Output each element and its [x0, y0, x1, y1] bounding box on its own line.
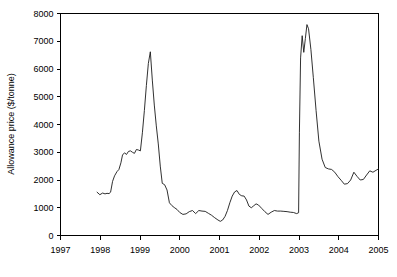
data-series-group [97, 25, 378, 222]
x-tick-label: 2002 [249, 245, 269, 255]
x-tick-label: 2000 [170, 245, 190, 255]
plot-frame [61, 14, 379, 236]
y-tick-label: 6000 [33, 64, 53, 74]
y-tick-label: 8000 [33, 9, 53, 19]
y-tick-label: 1000 [33, 203, 53, 213]
plot-area-border [61, 14, 379, 236]
x-tick-label: 2003 [289, 245, 309, 255]
y-tick-label: 0 [48, 231, 53, 241]
line-chart: 010002000300040005000600070008000 199719… [0, 0, 397, 277]
data-series-line [97, 25, 378, 222]
x-tick-label: 2004 [329, 245, 349, 255]
y-tick-label: 2000 [33, 175, 53, 185]
y-axis-title: Allowance price ($/tonne) [6, 73, 16, 175]
x-tick-label: 2001 [209, 245, 229, 255]
y-axis-ticks: 010002000300040005000600070008000 [33, 9, 60, 241]
x-axis-ticks: 199719981999200020012002200320042005 [50, 236, 388, 255]
y-tick-label: 5000 [33, 92, 53, 102]
y-tick-label: 7000 [33, 36, 53, 46]
x-tick-label: 1998 [90, 245, 110, 255]
x-tick-label: 2005 [368, 245, 388, 255]
x-tick-label: 1997 [50, 245, 70, 255]
chart-figure: 010002000300040005000600070008000 199719… [0, 0, 397, 277]
x-tick-label: 1999 [130, 245, 150, 255]
y-tick-label: 3000 [33, 147, 53, 157]
y-tick-label: 4000 [33, 120, 53, 130]
